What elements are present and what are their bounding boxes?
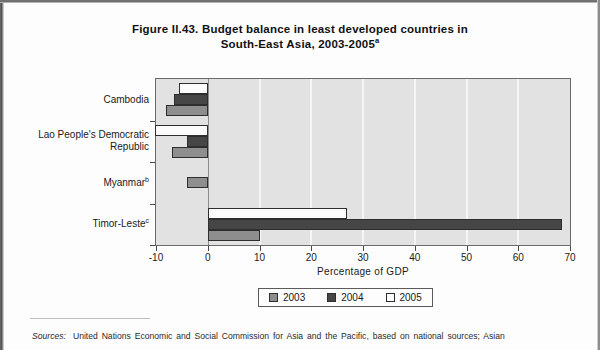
- bar-myanmar-2003: [187, 177, 208, 188]
- bar-timor-leste-2005: [208, 208, 348, 219]
- category-label-text: Timor-Leste: [93, 218, 146, 229]
- x-tick-label: -10: [136, 252, 176, 263]
- legend-swatch-2005: [386, 293, 395, 302]
- category-label-text: Cambodia: [103, 94, 149, 105]
- bar-lao-people-s-democratic-republic-2005: [155, 125, 208, 136]
- x-tick-label: 50: [447, 252, 487, 263]
- bar-cambodia-2004: [174, 94, 208, 105]
- legend-swatch-2004: [327, 293, 336, 302]
- bar-timor-leste-2003: [208, 230, 260, 241]
- bar-lao-people-s-democratic-republic-2003: [172, 147, 208, 158]
- legend-label-2003: 2003: [283, 292, 305, 303]
- plot-area: [155, 78, 571, 246]
- x-tick-label: 10: [240, 252, 280, 263]
- legend-label-2004: 2004: [341, 292, 363, 303]
- figure-title-line2: South-East Asia, 2003-2005: [221, 38, 375, 50]
- chart-legend: 200320042005: [258, 288, 433, 307]
- category-label-timor-leste: Timor-Lestec: [5, 218, 155, 230]
- category-label-lao-people-s-democratic-republic: Lao People's DemocraticRepublic: [5, 129, 155, 153]
- source-text: United Nations Economic and Social Commi…: [73, 331, 505, 341]
- x-tick: [156, 246, 157, 251]
- figure-title-line1: Figure II.43. Budget balance in least de…: [132, 23, 468, 35]
- category-label-superscript: c: [146, 217, 150, 224]
- legend-item-2004: 2004: [327, 292, 363, 303]
- x-tick-label: 20: [291, 252, 331, 263]
- category-label-superscript: b: [145, 175, 149, 182]
- source-note: Sources:United Nations Economic and Soci…: [32, 331, 598, 341]
- category-label-text: Myanmar: [103, 177, 145, 188]
- category-axis-labels: CambodiaLao People's DemocraticRepublicM…: [0, 0, 155, 350]
- x-tick: [415, 246, 416, 251]
- x-tick: [518, 246, 519, 251]
- bar-cambodia-2005: [179, 83, 207, 94]
- x-tick: [363, 246, 364, 251]
- x-tick: [260, 246, 261, 251]
- bar-cambodia-2003: [166, 105, 207, 116]
- source-divider: [30, 318, 150, 319]
- bar-lao-people-s-democratic-republic-2004: [187, 136, 208, 147]
- legend-label-2005: 2005: [400, 292, 422, 303]
- category-label-myanmar: Myanmarb: [5, 177, 155, 189]
- x-tick: [208, 246, 209, 251]
- figure-title-superscript: a: [375, 36, 379, 45]
- figure-page: Figure II.43. Budget balance in least de…: [0, 0, 600, 350]
- x-tick-label: 0: [188, 252, 228, 263]
- bar-timor-leste-2004: [208, 219, 562, 230]
- x-tick: [570, 246, 571, 251]
- x-tick-label: 60: [498, 252, 538, 263]
- x-tick: [311, 246, 312, 251]
- x-tick: [467, 246, 468, 251]
- source-label: Sources:: [32, 331, 66, 341]
- category-label-text: Republic: [110, 141, 149, 152]
- x-tick-label: 70: [550, 252, 590, 263]
- legend-item-2003: 2003: [269, 292, 305, 303]
- x-tick-label: 30: [343, 252, 383, 263]
- category-label-cambodia: Cambodia: [5, 94, 155, 106]
- x-tick-label: 40: [395, 252, 435, 263]
- x-axis-title: Percentage of GDP: [155, 266, 571, 277]
- category-label-text: Lao People's Democratic: [38, 129, 149, 140]
- legend-item-2005: 2005: [386, 292, 422, 303]
- legend-swatch-2003: [269, 293, 278, 302]
